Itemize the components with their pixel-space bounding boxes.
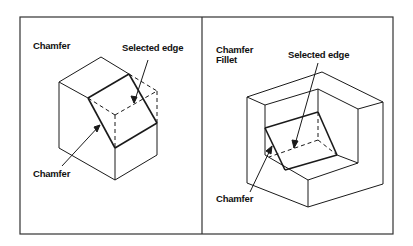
- panel-2-chamfer-label: Chamfer: [216, 194, 253, 204]
- panel-1-chamfer-label: Chamfer: [33, 169, 70, 179]
- chamfered-cube-figure: [59, 57, 157, 180]
- diagram-canvas: [0, 0, 413, 246]
- panel-2-title-line2: Fillet: [216, 55, 237, 65]
- panel-1-selected-edge-label: Selected edge: [122, 43, 183, 53]
- chamfered-l-block-figure: [247, 63, 383, 207]
- panel-1-title: Chamfer: [33, 41, 70, 51]
- panel-2-selected-edge-label: Selected edge: [288, 50, 349, 60]
